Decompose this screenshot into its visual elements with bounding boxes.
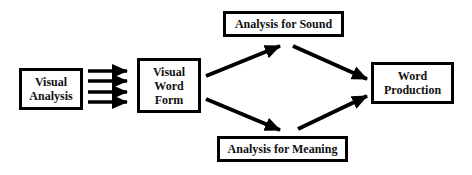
analysis-for-sound-label: Analysis for Sound — [235, 17, 332, 31]
visual-analysis-box: Visual Analysis — [19, 68, 83, 110]
analysis-for-meaning-box: Analysis for Meaning — [217, 136, 348, 162]
arrow-meaning-to-production — [298, 96, 367, 129]
arrow-wordform-to-sound — [206, 46, 280, 76]
word-production-label: Word Production — [384, 69, 441, 97]
analysis-for-sound-box: Analysis for Sound — [223, 11, 344, 37]
visual-word-form-label: Visual Word Form — [153, 65, 185, 107]
arrow-wordform-to-meaning — [206, 99, 280, 130]
analysis-for-meaning-label: Analysis for Meaning — [228, 142, 338, 156]
word-production-box: Word Production — [371, 62, 454, 104]
input-arrows — [88, 71, 127, 102]
visual-analysis-label: Visual Analysis — [29, 75, 72, 103]
arrow-sound-to-production — [293, 46, 367, 79]
visual-word-form-box: Visual Word Form — [137, 58, 201, 113]
